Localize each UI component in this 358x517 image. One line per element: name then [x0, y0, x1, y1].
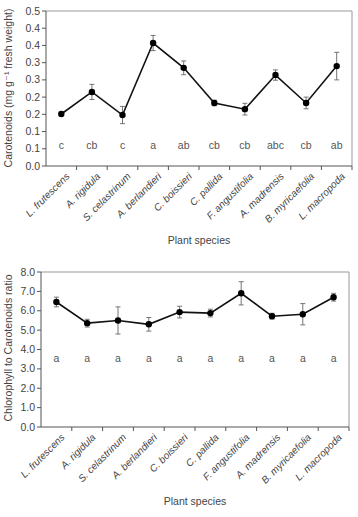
data-point — [119, 112, 125, 118]
data-point — [330, 294, 336, 300]
y-tick-label: 0.5 — [25, 5, 40, 17]
data-point — [272, 72, 278, 78]
significance-letter: a — [146, 352, 152, 364]
y-tick-label: 0.3 — [25, 56, 40, 68]
y-tick-label: 6.0 — [20, 304, 35, 316]
data-point — [211, 100, 217, 106]
data-point — [207, 310, 213, 316]
y-tick-label: 0.1 — [25, 142, 40, 154]
data-point — [334, 63, 340, 69]
significance-letter: cb — [301, 139, 312, 151]
y-tick-label: 7.0 — [20, 285, 35, 297]
y-tick-label: 0.1 — [25, 125, 40, 137]
x-tick-label: L. frutescens — [18, 432, 66, 480]
data-point — [53, 299, 59, 305]
x-axis-title: Plant species — [164, 495, 226, 507]
significance-letter: ab — [331, 139, 343, 151]
significance-letter: a — [269, 352, 275, 364]
data-point — [181, 65, 187, 71]
data-point — [115, 317, 121, 323]
data-point — [84, 320, 90, 326]
significance-letter: a — [84, 352, 90, 364]
y-tick-label: 4.0 — [20, 343, 35, 355]
significance-letter: a — [115, 352, 121, 364]
chart-canvas: 0.00.10.10.20.20.30.30.40.40.5L. frutesc… — [0, 0, 358, 517]
significance-letter: abc — [267, 139, 284, 151]
y-tick-label: 0.4 — [25, 22, 40, 34]
y-tick-label: 0.3 — [25, 73, 40, 85]
significance-letter: cb — [239, 139, 250, 151]
y-tick-label: 0.2 — [25, 108, 40, 120]
y-tick-label: 0.0 — [20, 421, 35, 433]
data-point — [58, 111, 64, 117]
data-point — [269, 313, 275, 319]
significance-letter: a — [207, 352, 213, 364]
y-tick-label: 8.0 — [20, 266, 35, 278]
significance-letter: c — [59, 139, 64, 151]
chart-panel-2: 0.01.02.03.04.05.06.07.08.0L. frutescens… — [2, 266, 349, 508]
significance-letter: a — [150, 139, 156, 151]
y-axis-title: Chlorophyll to Carotenoids ratio — [2, 274, 14, 421]
significance-letter: a — [53, 352, 59, 364]
significance-letter: ab — [178, 139, 190, 151]
data-line — [56, 293, 333, 324]
data-point — [303, 100, 309, 106]
data-line — [61, 43, 336, 115]
y-tick-label: 3.0 — [20, 362, 35, 374]
y-tick-label: 2.0 — [20, 382, 35, 394]
y-tick-label: 0.2 — [25, 91, 40, 103]
significance-letter: a — [331, 352, 337, 364]
significance-letter: c — [120, 139, 125, 151]
data-point — [176, 309, 182, 315]
data-point — [150, 40, 156, 46]
significance-letter: a — [300, 352, 306, 364]
x-tick-label: L. frutescens — [23, 171, 71, 219]
data-point — [242, 106, 248, 112]
significance-letter: a — [177, 352, 183, 364]
significance-letter: a — [238, 352, 244, 364]
data-point — [238, 290, 244, 296]
significance-letter: cb — [209, 139, 220, 151]
data-point — [146, 321, 152, 327]
x-axis-title: Plant species — [168, 234, 230, 246]
plot-frame — [41, 272, 349, 427]
y-tick-label: 0.4 — [25, 39, 40, 51]
y-tick-label: 5.0 — [20, 324, 35, 336]
y-tick-label: 1.0 — [20, 401, 35, 413]
y-tick-label: 0.0 — [25, 160, 40, 172]
significance-letter: cb — [86, 139, 97, 151]
y-axis-title: Carotenoids (mg g⁻¹ fresh weight) — [2, 9, 14, 168]
data-point — [89, 89, 95, 95]
data-point — [300, 311, 306, 317]
chart-panel-1: 0.00.10.10.20.20.30.30.40.40.5L. frutesc… — [2, 5, 352, 247]
